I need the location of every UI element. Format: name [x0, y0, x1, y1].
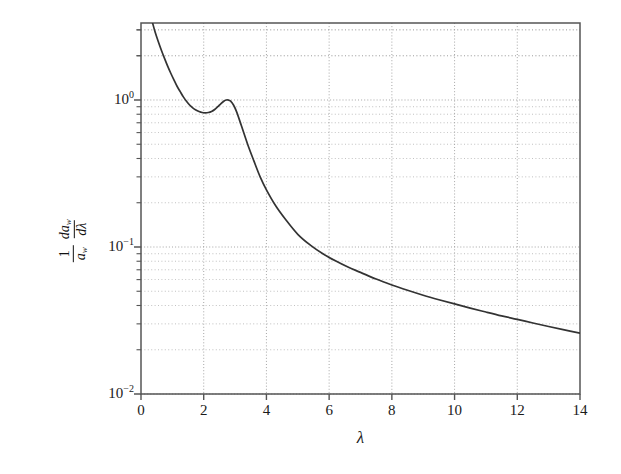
x-axis-title: λ	[123, 428, 598, 448]
figure-canvas: 1 aw daw dλ 10010−110−2 02468101214 λ	[0, 0, 621, 474]
x-tick-label: 0	[123, 402, 159, 419]
data-series-group	[153, 23, 580, 333]
y-tick-label: 10−1	[82, 236, 134, 255]
x-tick-label: 2	[186, 402, 222, 419]
grid-lines-horizontal	[141, 30, 580, 394]
tick-marks	[134, 30, 580, 400]
data-curve	[153, 23, 580, 333]
axes-border	[141, 23, 580, 394]
grid-lines-vertical	[204, 23, 518, 394]
x-tick-label: 14	[562, 402, 598, 419]
y-tick-label: 10−2	[82, 383, 134, 402]
x-tick-label: 8	[374, 402, 410, 419]
x-tick-label: 10	[437, 402, 473, 419]
x-tick-label: 4	[248, 402, 284, 419]
y-tick-label: 100	[82, 89, 134, 108]
axes-frame	[141, 23, 580, 394]
x-tick-label: 12	[499, 402, 535, 419]
x-tick-label: 6	[311, 402, 347, 419]
